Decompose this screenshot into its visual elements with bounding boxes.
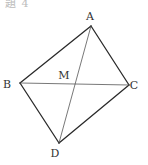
segment-AB [20,26,91,83]
quadrilateral-diagonals [20,26,129,143]
segment-DC [59,85,129,143]
quadrilateral-diagram: A B C D M [0,0,148,165]
label-D: D [51,147,60,160]
label-A: A [85,10,95,23]
label-B: B [3,78,11,91]
segment-BD [20,83,59,143]
segment-CA [91,26,129,85]
label-M: M [58,69,69,82]
label-C: C [130,79,138,92]
segment-BC [20,83,129,85]
